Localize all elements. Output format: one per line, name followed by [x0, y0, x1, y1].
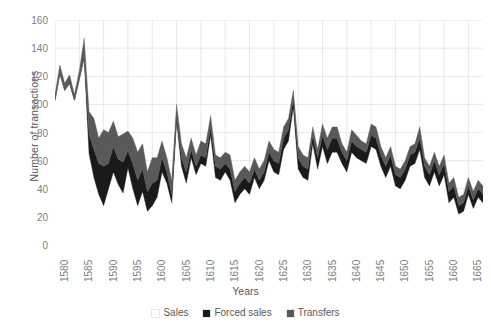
legend-swatch-icon [286, 309, 295, 318]
x-tick-label: 1615 [229, 260, 240, 282]
legend-label: Forced sales [214, 308, 271, 318]
y-tick-label: 0 [42, 240, 48, 251]
legend-item-transfers[interactable]: Transfers [286, 308, 340, 318]
x-tick-label: 1635 [327, 260, 338, 282]
y-tick-label: 140 [31, 43, 48, 54]
x-tick-label: 1640 [351, 260, 362, 282]
stacked-area-plot [55, 20, 483, 245]
legend-swatch-icon [202, 309, 211, 318]
y-tick-label: 40 [37, 183, 48, 194]
y-tick-label: 20 [37, 211, 48, 222]
y-tick-label: 60 [37, 155, 48, 166]
y-tick-label: 100 [31, 99, 48, 110]
y-tick-label: 120 [31, 71, 48, 82]
x-tick-label: 1595 [132, 260, 143, 282]
chart-legend: SalesForced salesTransfers [0, 308, 491, 318]
x-tick-label: 1625 [278, 260, 289, 282]
x-tick-label: 1665 [472, 260, 483, 282]
x-tick-label: 1645 [375, 260, 386, 282]
x-tick-label: 1610 [205, 260, 216, 282]
x-tick-label: 1585 [83, 260, 94, 282]
legend-item-sales[interactable]: Sales [151, 308, 188, 318]
x-tick-label: 1630 [302, 260, 313, 282]
x-tick-label: 1650 [399, 260, 410, 282]
x-axis-title: Years [0, 285, 491, 297]
area-series-layer [55, 38, 483, 245]
chart-root: Number of transactions 16014012010080604… [0, 0, 491, 334]
legend-swatch-icon [151, 309, 160, 318]
legend-label: Sales [163, 308, 188, 318]
x-tick-label: 1580 [59, 260, 70, 282]
x-tick-label: 1605 [181, 260, 192, 282]
x-tick-label: 1655 [424, 260, 435, 282]
x-tick-label: 1620 [254, 260, 265, 282]
y-axis-tick-labels: 160140120100806040200 [0, 0, 54, 334]
x-tick-label: 1600 [156, 260, 167, 282]
x-tick-label: 1660 [448, 260, 459, 282]
y-tick-label: 160 [31, 15, 48, 26]
x-tick-label: 1590 [108, 260, 119, 282]
legend-item-forced-sales[interactable]: Forced sales [202, 308, 271, 318]
y-tick-label: 80 [37, 127, 48, 138]
legend-label: Transfers [298, 308, 340, 318]
plot-area [55, 20, 483, 245]
